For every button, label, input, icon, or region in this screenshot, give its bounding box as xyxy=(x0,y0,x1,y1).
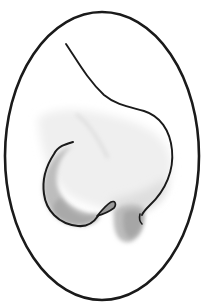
nose-illustration: nose side profile sketch in oval frame xyxy=(0,0,209,303)
nose-drawing xyxy=(0,0,209,303)
